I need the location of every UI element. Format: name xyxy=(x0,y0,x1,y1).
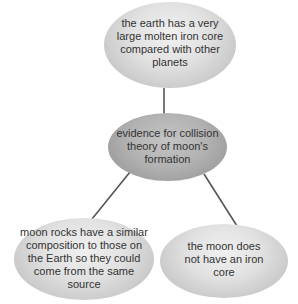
concept-map: the earth has a very large molten iron c… xyxy=(0,0,298,304)
connector-center-left xyxy=(92,172,130,219)
node-text: evidence for collision theory of moon's … xyxy=(116,127,219,166)
node-moon-no-iron-core: the moon does not have an iron core xyxy=(160,224,288,298)
node-earth-iron-core: the earth has a very large molten iron c… xyxy=(104,2,236,88)
node-text: moon rocks have a similar composition to… xyxy=(20,226,148,291)
node-collision-theory-evidence: evidence for collision theory of moon's … xyxy=(108,113,227,181)
node-text: the moon does not have an iron core xyxy=(180,240,268,279)
connector-center-right xyxy=(204,174,237,226)
node-moon-rock-composition: moon rocks have a similar composition to… xyxy=(14,218,154,300)
node-text: the earth has a very large molten iron c… xyxy=(116,17,224,69)
